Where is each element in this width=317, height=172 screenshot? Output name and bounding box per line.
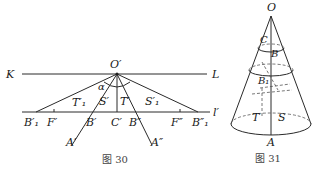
label-Bp: B′ bbox=[85, 116, 97, 129]
label-Fp: F′ bbox=[46, 116, 58, 129]
label-S: S bbox=[278, 111, 286, 124]
label-B: B bbox=[270, 48, 278, 59]
caption-figure-30: 图 30 bbox=[102, 154, 128, 165]
label-K: K bbox=[5, 68, 15, 81]
label-alpha: α bbox=[98, 81, 105, 92]
point-O bbox=[116, 73, 119, 76]
label-A: A bbox=[266, 136, 275, 149]
label-S1: S′₁ bbox=[145, 95, 159, 108]
label-O: O bbox=[267, 1, 276, 14]
label-C: C bbox=[260, 34, 268, 45]
label-S: S′ bbox=[99, 95, 110, 108]
label-T1: T′₁ bbox=[72, 96, 86, 109]
label-T: T bbox=[252, 111, 261, 124]
dash-helper-2 bbox=[252, 90, 292, 94]
label-Cp: C′ bbox=[111, 116, 122, 129]
label-B1p: B′₁ bbox=[23, 116, 39, 129]
label-B1: B₁ bbox=[257, 75, 269, 86]
label-Bpp: B″ bbox=[128, 116, 142, 129]
label-Ap: A′ bbox=[65, 136, 77, 149]
label-T: T′ bbox=[120, 95, 130, 108]
figure-31: O C B B₁ T S A 图 31 bbox=[231, 1, 311, 164]
label-O: O′ bbox=[110, 58, 122, 71]
diagram-canvas: K L O′ l′ α T′₁ S′ T′ S′₁ B′₁ F′ B′ C′ B… bbox=[0, 0, 317, 172]
cone-left-edge bbox=[231, 16, 271, 124]
label-l: l′ bbox=[213, 106, 220, 119]
caption-figure-31: 图 31 bbox=[255, 153, 281, 164]
ray-O-App bbox=[117, 74, 152, 145]
label-App: A″ bbox=[150, 136, 164, 149]
label-B1pp: B″₁ bbox=[191, 116, 209, 129]
label-L: L bbox=[211, 68, 219, 81]
cone-right-edge bbox=[271, 16, 311, 124]
label-Fpp: F″ bbox=[170, 116, 184, 129]
figure-30: K L O′ l′ α T′₁ S′ T′ S′₁ B′₁ F′ B′ C′ B… bbox=[5, 58, 220, 165]
